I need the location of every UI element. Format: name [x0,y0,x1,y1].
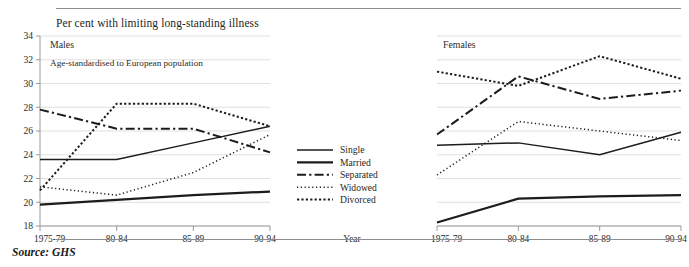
legend-label-married: Married [340,157,371,168]
legend-label-divorced: Divorced [340,194,376,205]
y-axis-tick-label: 22 [23,173,33,184]
series-line-males-married [40,192,270,205]
y-axis-tick-label: 28 [23,102,33,113]
panel-title-females: Females [443,39,476,50]
y-axis-tick-label: 18 [23,220,33,231]
legend-label-widowed: Widowed [340,182,377,193]
legend-label-single: Single [340,144,365,155]
y-axis-tick-label: 24 [23,149,33,160]
series-line-females-single [437,132,681,155]
bottom-divider-rule [56,239,681,240]
y-axis-tick-label: 34 [23,30,33,41]
series-line-males-divorced [40,104,270,191]
series-line-females-divorced [437,56,681,86]
series-line-females-separated [437,76,681,134]
y-axis-tick-label: 30 [23,78,33,89]
source-note: Source: GHS [12,246,76,258]
series-line-females-married [437,195,681,222]
series-line-males-widowed [40,135,270,196]
chart-canvas: 1820222426283032341975-7980-8485-8990-94… [0,0,689,267]
y-axis-tick-label: 20 [23,197,33,208]
panel-title-males: Males [50,39,74,50]
y-axis-tick-label: 32 [23,54,33,65]
legend-label-separated: Separated [340,169,378,180]
age-standardisation-note: Age-standardised to European population [50,58,203,68]
y-axis-tick-label: 26 [23,125,33,136]
